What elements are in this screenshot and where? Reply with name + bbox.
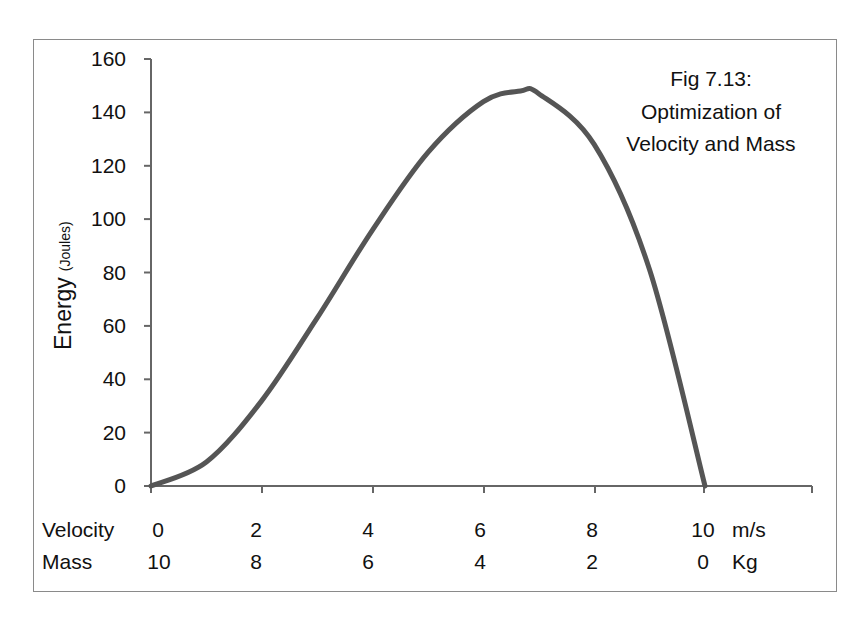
mass-tick-10: 10	[147, 550, 170, 573]
mass-unit: Kg	[732, 550, 758, 573]
y-axis: 160 140 120 100 80 60 40 20 0	[91, 47, 151, 497]
velocity-tick-4: 4	[362, 518, 374, 541]
x-labels-velocity: Velocity 0 2 4 6 8 10 m/s	[42, 518, 766, 541]
y-tick-0: 0	[114, 474, 126, 497]
velocity-tick-2: 2	[250, 518, 262, 541]
x-axis	[151, 486, 812, 493]
mass-tick-8: 8	[250, 550, 262, 573]
y-tick-100: 100	[91, 207, 126, 230]
y-tick-40: 40	[103, 367, 126, 390]
velocity-row-label: Velocity	[42, 518, 115, 541]
mass-row-label: Mass	[42, 550, 92, 573]
velocity-tick-0: 0	[152, 518, 164, 541]
velocity-unit: m/s	[732, 518, 766, 541]
chart-title: Fig 7.13: Optimization of Velocity and M…	[626, 67, 795, 155]
mass-tick-0: 0	[697, 550, 709, 573]
svg-text:Energy(Joules): Energy(Joules)	[50, 221, 76, 350]
x-labels-mass: Mass 10 8 6 4 2 0 Kg	[42, 550, 758, 573]
y-axis-title: Energy(Joules)	[50, 221, 76, 350]
y-tick-140: 140	[91, 100, 126, 123]
y-axis-unit: (Joules)	[57, 221, 73, 271]
energy-curve	[151, 88, 705, 486]
title-line-2: Optimization of	[641, 100, 781, 123]
chart-svg: 160 140 120 100 80 60 40 20 0 Energy(Jou…	[0, 0, 867, 621]
y-axis-label: Energy	[50, 277, 76, 350]
mass-tick-4: 4	[474, 550, 486, 573]
y-tick-60: 60	[103, 314, 126, 337]
velocity-tick-8: 8	[586, 518, 598, 541]
y-tick-160: 160	[91, 47, 126, 70]
y-tick-80: 80	[103, 261, 126, 284]
mass-tick-6: 6	[362, 550, 374, 573]
velocity-tick-6: 6	[474, 518, 486, 541]
mass-tick-2: 2	[586, 550, 598, 573]
y-tick-120: 120	[91, 154, 126, 177]
velocity-tick-10: 10	[691, 518, 714, 541]
y-tick-20: 20	[103, 421, 126, 444]
title-line-1: Fig 7.13:	[670, 67, 752, 90]
title-line-3: Velocity and Mass	[626, 132, 795, 155]
